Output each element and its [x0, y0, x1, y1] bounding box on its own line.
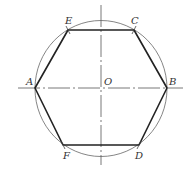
label-C: C [131, 15, 139, 26]
label-O: O [104, 76, 112, 87]
label-B: B [168, 76, 176, 87]
hexagon-diagram: E C A O B F D [0, 0, 194, 174]
label-A: A [25, 76, 33, 87]
label-E: E [64, 15, 73, 26]
label-D: D [134, 150, 143, 161]
diagram-svg: E C A O B F D [0, 0, 194, 174]
label-F: F [62, 150, 71, 161]
